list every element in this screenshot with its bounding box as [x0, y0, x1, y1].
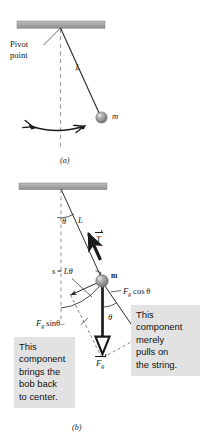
- callout-left: This component brings the bob back to ce…: [14, 337, 75, 408]
- swing-arc-arrow-a: [32, 127, 83, 131]
- ceiling-bar-a: [17, 21, 105, 28]
- fg-sin-rest: sinθ: [46, 318, 60, 328]
- callout-left-line-1: This: [19, 341, 70, 353]
- angle-label-bob-b: θ: [108, 313, 112, 322]
- weight-vector-symbol: Fg: [96, 359, 104, 369]
- arc-s-path-b: [61, 287, 99, 308]
- pendulum-bob-b: [96, 275, 108, 287]
- angle-label-pivot-b: θ: [62, 217, 66, 226]
- pivot-label-line2: point: [10, 50, 28, 60]
- callout-right-line-4: pulls on: [136, 346, 195, 358]
- callout-left-line-4: bob back: [19, 378, 70, 390]
- arc-s-leader-b: [72, 279, 92, 298]
- angle-arc-bob-b: [104, 303, 117, 307]
- arc-theta-symbol: θ: [68, 266, 72, 276]
- angle-arc-tick-b: [57, 217, 61, 218]
- tension-vector-symbol: T: [96, 235, 101, 244]
- length-label-b: L: [78, 216, 83, 225]
- fg-cos-rest: cos θ: [133, 286, 150, 296]
- callout-right-line-1: This: [136, 309, 195, 321]
- mass-label-a: m: [112, 112, 118, 121]
- fg-cos-leader-b: [111, 291, 122, 293]
- callout-right-line-5: the string.: [136, 359, 195, 371]
- bob-highlight-b: [98, 277, 102, 281]
- callout-left-line-2: component: [19, 353, 70, 365]
- weight-subscript: g: [101, 362, 104, 369]
- callout-right-line-2: component: [136, 321, 195, 333]
- tension-label-b: T: [96, 235, 101, 244]
- callout-right-line-3: merely: [136, 334, 195, 346]
- fg-sin-theta-label: Fg sinθ–: [36, 319, 65, 329]
- pendulum-figure: Pivot point L m (a) θ L T s = Lθ m Fg co…: [0, 0, 208, 444]
- bob-highlight-a: [98, 114, 101, 117]
- pivot-label-line1: Pivot: [10, 39, 28, 49]
- callout-left-line-5: to center.: [19, 391, 70, 403]
- pivot-point-label: Pivot point: [10, 39, 28, 60]
- fg-cos-theta-label: Fg cos θ: [123, 287, 150, 297]
- panel-b-graphics: [19, 183, 140, 357]
- length-label-a: L: [76, 63, 81, 72]
- arc-length-label-b: s = Lθ: [52, 267, 73, 276]
- ceiling-bar-b: [19, 183, 107, 190]
- pendulum-bob-a: [96, 112, 107, 123]
- caption-a: (a): [60, 157, 70, 165]
- pivot-leader-line-a: [44, 28, 61, 45]
- fg-sin-dash: –: [60, 318, 64, 328]
- caption-b: (b): [72, 424, 82, 432]
- mass-label-b: m: [111, 272, 117, 280]
- fg-sin-leader-b: [81, 318, 89, 325]
- panel-a-graphics: [17, 21, 107, 150]
- callout-right: This component merely pulls on the strin…: [131, 305, 200, 376]
- weight-label-b: Fg: [96, 359, 104, 369]
- callout-left-line-3: brings the: [19, 366, 70, 378]
